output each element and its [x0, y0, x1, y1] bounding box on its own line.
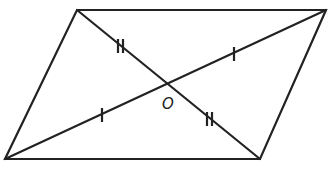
- parallelogram-diagram: O: [0, 0, 328, 171]
- diagonal-top-left-to-bottom-right: [77, 10, 260, 159]
- center-label-o: O: [162, 95, 174, 113]
- diagonal-bottom-left-to-top-right: [5, 10, 326, 159]
